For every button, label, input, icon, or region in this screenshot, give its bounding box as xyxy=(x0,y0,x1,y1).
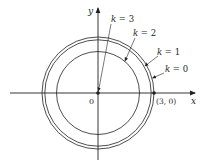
label-k1: k = 1 xyxy=(157,47,180,57)
y-axis-label: y xyxy=(87,6,94,16)
point-label: (3, 0) xyxy=(156,97,176,106)
x-axis-label: x xyxy=(191,96,196,106)
origin-point xyxy=(96,91,100,95)
pointer-k0 xyxy=(153,73,165,78)
label-k3: k = 3 xyxy=(111,14,134,24)
pointer-k1 xyxy=(145,56,158,66)
label-k0: k = 0 xyxy=(165,64,188,74)
pointer-k3 xyxy=(99,24,112,91)
label-k2: k = 2 xyxy=(133,28,156,38)
level-curves-diagram: y x 0 (3, 0) k = 3 k = 2 k = 1 k = 0 xyxy=(0,0,204,166)
origin-label: 0 xyxy=(89,97,94,106)
point-3-0 xyxy=(152,91,156,95)
